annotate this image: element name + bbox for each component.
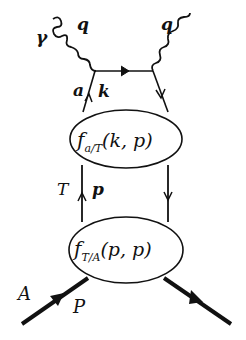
label-k: k — [98, 81, 110, 101]
arrow-top-icon — [121, 66, 129, 76]
label-T: T — [57, 179, 70, 199]
label-q-in: q — [77, 14, 89, 34]
label-A: A — [16, 283, 31, 304]
quark-line-right — [153, 71, 168, 112]
label-q-out: q — [161, 14, 173, 34]
label-a: a — [73, 80, 84, 100]
arrow-hadron-out-icon — [189, 290, 203, 304]
label-p: p — [92, 179, 104, 199]
feynman-diagram: γ q q a k T p A P fa/T(k, p) fT/A(p, p) — [0, 0, 246, 340]
photon-line-in — [53, 17, 96, 71]
label-gamma: γ — [36, 27, 48, 47]
label-P: P — [72, 296, 86, 317]
quark-line-left — [83, 71, 95, 112]
